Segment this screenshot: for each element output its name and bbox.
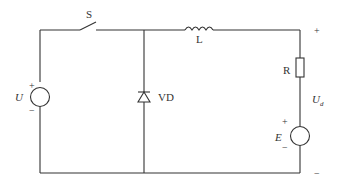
resistor-label: R bbox=[283, 64, 291, 76]
source-u-minus: − bbox=[29, 105, 35, 116]
diode-label: VD bbox=[158, 91, 174, 103]
source-u-label: U bbox=[15, 91, 24, 103]
output-voltage-label: Ud bbox=[312, 93, 324, 108]
output-plus: + bbox=[314, 25, 320, 36]
source-e-label: E bbox=[274, 131, 282, 143]
resistor-r-icon bbox=[296, 58, 304, 77]
output-minus: − bbox=[314, 168, 320, 179]
source-e-plus: + bbox=[282, 116, 288, 127]
source-e-minus: − bbox=[282, 142, 288, 153]
source-u-plus: + bbox=[29, 80, 35, 91]
inductor-l bbox=[185, 27, 213, 30]
switch-label: S bbox=[86, 8, 92, 20]
diode-vd-icon bbox=[138, 92, 150, 102]
inductor-label: L bbox=[196, 33, 203, 45]
source-e-icon bbox=[291, 127, 310, 146]
circuit-diagram: S L VD R U + − E + − Ud + − bbox=[0, 0, 340, 185]
switch-s bbox=[80, 22, 96, 30]
